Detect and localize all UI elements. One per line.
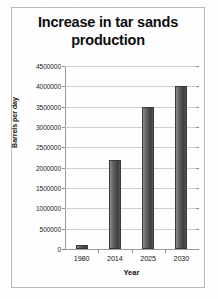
- y-axis-tick-label: 500000: [11, 225, 61, 232]
- y-axis-tick-label: 2500000: [11, 144, 61, 151]
- y-axis-tick-mark: [196, 66, 199, 67]
- y-axis-tick-mark: [196, 127, 199, 128]
- y-axis-tick-mark: [62, 107, 65, 108]
- y-axis-tick-mark: [196, 86, 199, 87]
- y-axis-tick-mark: [62, 249, 65, 250]
- x-axis-tick-mark: [132, 250, 133, 253]
- chart-title-line-2: production: [11, 31, 205, 49]
- plot-area: [65, 66, 198, 249]
- y-axis-tick-mark: [62, 168, 65, 169]
- y-axis-tick-label: 3500000: [11, 103, 61, 110]
- y-axis-tick-mark: [196, 208, 199, 209]
- x-axis-tick-label: 2030: [174, 254, 190, 263]
- y-axis-tick-mark: [62, 147, 65, 148]
- bar-1980: [76, 245, 88, 249]
- x-axis-tick-labels: 1980201420252030: [65, 254, 198, 266]
- bar-2030: [175, 86, 187, 249]
- chart-title-line-1: Increase in tar sands: [11, 13, 205, 31]
- y-axis-tick-label: 3000000: [11, 124, 61, 131]
- gridline: [65, 66, 198, 67]
- chart-title: Increase in tar sands production: [11, 13, 205, 49]
- y-axis-tick-mark: [62, 229, 65, 230]
- y-axis-tick-mark: [196, 147, 199, 148]
- y-axis-tick-mark: [62, 127, 65, 128]
- x-axis-tick-label: 2025: [140, 254, 156, 263]
- x-axis-tick-label: 1980: [74, 254, 90, 263]
- y-axis-tick-label: 0: [11, 246, 61, 253]
- y-axis-tick-mark: [196, 107, 199, 108]
- y-axis-tick-mark: [196, 229, 199, 230]
- y-axis-tick-label: 2000000: [11, 164, 61, 171]
- x-axis-tick-label: 2014: [107, 254, 123, 263]
- chart-page: Increase in tar sands production Barrels…: [0, 0, 218, 299]
- bar-2014: [109, 160, 121, 249]
- x-axis-title: Year: [65, 268, 198, 277]
- y-axis-tick-mark: [196, 249, 199, 250]
- x-axis-tick-mark: [165, 250, 166, 253]
- y-axis-tick-mark: [196, 188, 199, 189]
- y-axis-tick-labels: 4500000400000035000003000000250000020000…: [9, 66, 61, 250]
- bar-2025: [142, 107, 154, 249]
- y-axis-tick-mark: [62, 86, 65, 87]
- y-axis-tick-label: 4500000: [11, 63, 61, 70]
- y-axis-tick-mark: [62, 66, 65, 67]
- x-axis-tick-mark: [98, 250, 99, 253]
- y-axis-tick-label: 1000000: [11, 205, 61, 212]
- y-axis-tick-mark: [196, 168, 199, 169]
- y-axis-tick-label: 4000000: [11, 83, 61, 90]
- y-axis-tick-mark: [62, 188, 65, 189]
- y-axis-tick-mark: [62, 208, 65, 209]
- y-axis-tick-label: 1500000: [11, 185, 61, 192]
